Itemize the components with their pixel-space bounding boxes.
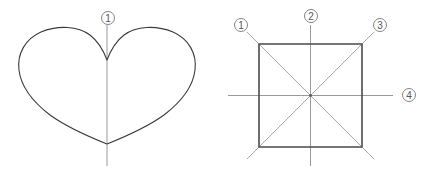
- square-axis-4-callout-label: 4: [406, 90, 412, 101]
- heart-axis-1-callout: 1: [102, 12, 115, 25]
- square-axis-3-callout-label: 3: [377, 20, 383, 31]
- heart-figure: 1: [19, 12, 196, 167]
- square-axis-4-callout: 4: [403, 89, 416, 102]
- square-figure: 1 2 3 4: [228, 10, 416, 167]
- square-center-point: [309, 94, 312, 97]
- figure-container: 1 1 2: [0, 0, 431, 172]
- heart-axis-1-callout-label: 1: [105, 13, 111, 24]
- square-axis-1-callout: 1: [235, 19, 248, 32]
- square-axis-2-callout: 2: [305, 10, 318, 23]
- square-axis-2-callout-label: 2: [308, 11, 314, 22]
- line-drawing-canvas: 1 1 2: [0, 0, 431, 172]
- square-axis-3-callout: 3: [374, 19, 387, 32]
- square-axis-1-callout-label: 1: [238, 20, 244, 31]
